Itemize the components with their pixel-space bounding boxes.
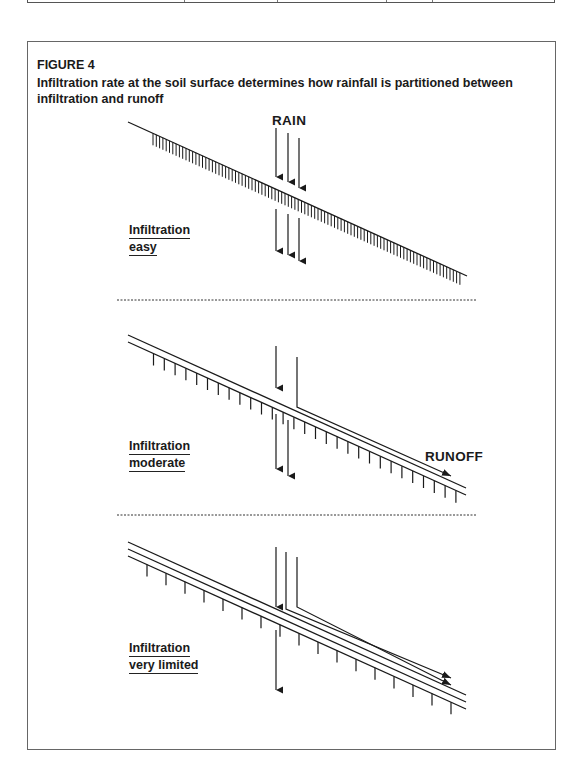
panel-label-very-limited: Infiltration very limited	[129, 640, 198, 674]
panel-moderate	[128, 335, 466, 503]
panel-very-limited	[128, 542, 466, 714]
label-line-1: Infiltration	[129, 439, 190, 455]
runoff-label: RUNOFF	[425, 449, 483, 464]
runoff-arrow	[297, 557, 451, 685]
runoff-arrow	[286, 552, 451, 678]
soil-hatching	[154, 354, 456, 503]
label-line-2: very limited	[129, 658, 198, 674]
panel-label-easy: Infiltration easy	[129, 222, 190, 256]
infiltration-arrows	[276, 209, 299, 261]
panel-label-moderate: Infiltration moderate	[129, 438, 190, 472]
label-line-1: Infiltration	[129, 641, 190, 657]
rain-arrows	[276, 128, 299, 188]
soil-hatching	[153, 133, 460, 284]
label-line-1: Infiltration	[129, 223, 190, 239]
label-line-2: easy	[129, 240, 157, 256]
panel-easy	[128, 122, 467, 285]
rain-label: RAIN	[272, 113, 306, 128]
label-line-2: moderate	[129, 456, 185, 472]
